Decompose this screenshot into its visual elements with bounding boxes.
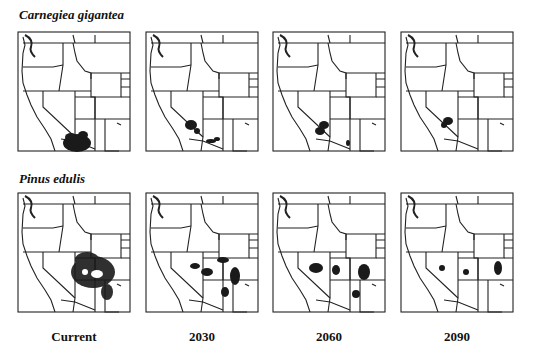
column-label-2060: 2060 bbox=[272, 329, 386, 345]
map-carnegiea-2060 bbox=[272, 31, 386, 152]
map-pinus-2030 bbox=[145, 192, 259, 313]
map-carnegiea-2030 bbox=[145, 31, 259, 152]
column-label-2030: 2030 bbox=[145, 329, 259, 345]
map-pinus-current bbox=[17, 192, 131, 313]
map-pinus-2060 bbox=[272, 192, 386, 313]
column-label-2090: 2090 bbox=[400, 329, 514, 345]
column-label-current: Current bbox=[17, 329, 131, 345]
map-pinus-2090 bbox=[400, 192, 514, 313]
map-carnegiea-current bbox=[17, 31, 131, 152]
species-label-carnegiea: Carnegiea gigantea bbox=[19, 7, 124, 23]
species-label-pinus: Pinus edulis bbox=[19, 171, 85, 187]
map-carnegiea-2090 bbox=[400, 31, 514, 152]
